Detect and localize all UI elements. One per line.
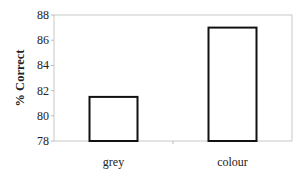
y-tick-label: 84 <box>37 58 49 72</box>
bar-grey <box>90 97 138 141</box>
y-axis-label: % Correct <box>13 49 27 107</box>
y-tick-label: 86 <box>37 33 49 47</box>
x-category-label: colour <box>217 155 248 169</box>
x-axis-labels: greycolour <box>103 141 248 169</box>
y-tick-label: 82 <box>37 84 49 98</box>
y-tick-label: 78 <box>37 134 49 148</box>
y-tick-label: 88 <box>37 8 49 22</box>
y-tick-label: 80 <box>37 109 49 123</box>
bars <box>90 28 257 141</box>
x-category-label: grey <box>103 155 124 169</box>
y-axis-ticks: 788082848688 <box>37 8 54 148</box>
bar-colour <box>209 28 257 141</box>
bar-chart: 788082848688 greycolour % Correct <box>0 0 307 176</box>
